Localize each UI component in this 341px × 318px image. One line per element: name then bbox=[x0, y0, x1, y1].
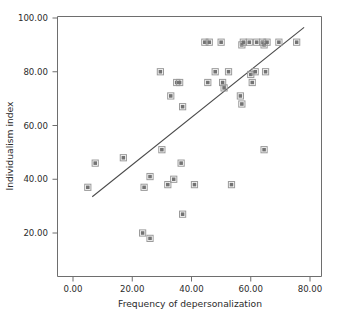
data-point-core bbox=[181, 212, 185, 216]
y-tick-label: 100.00 bbox=[18, 13, 48, 23]
data-point-core bbox=[250, 81, 254, 85]
data-point bbox=[141, 184, 147, 190]
y-tick-label: 80.00 bbox=[23, 67, 48, 77]
data-point bbox=[276, 39, 282, 45]
data-point-core bbox=[206, 81, 210, 85]
data-point bbox=[171, 176, 177, 182]
data-point bbox=[212, 69, 218, 75]
data-point-core bbox=[179, 161, 183, 165]
data-point-core bbox=[253, 70, 257, 74]
data-point bbox=[246, 39, 252, 45]
data-point bbox=[202, 39, 208, 45]
data-point-core bbox=[166, 183, 170, 187]
x-axis-ticks: 0.0020.0040.0060.0080.00 bbox=[63, 277, 322, 295]
y-tick-label: 20.00 bbox=[23, 228, 48, 238]
x-tick-label: 40.00 bbox=[179, 284, 204, 294]
x-axis-title: Frequency of depersonalization bbox=[118, 298, 262, 309]
data-point bbox=[218, 39, 224, 45]
data-point-core bbox=[262, 148, 266, 152]
data-point bbox=[262, 69, 268, 75]
data-point-core bbox=[207, 40, 211, 44]
y-axis-title: Individualism index bbox=[4, 101, 15, 191]
data-point-core bbox=[230, 183, 234, 187]
data-point-core bbox=[160, 148, 164, 152]
data-point-core bbox=[222, 86, 226, 90]
data-point-core bbox=[159, 70, 163, 74]
y-tick-label: 60.00 bbox=[23, 121, 48, 131]
data-point-core bbox=[93, 161, 97, 165]
data-point bbox=[228, 182, 234, 188]
data-point bbox=[157, 69, 163, 75]
data-point bbox=[159, 147, 165, 153]
data-point bbox=[92, 160, 98, 166]
plot-frame bbox=[58, 17, 322, 277]
y-axis-ticks: 20.0040.0060.0080.00100.00 bbox=[18, 13, 58, 238]
data-point-core bbox=[148, 175, 152, 179]
x-tick-label: 80.00 bbox=[298, 284, 323, 294]
plot-canvas: 20.0040.0060.0080.00100.00 0.0020.0040.0… bbox=[0, 0, 341, 318]
data-point bbox=[261, 147, 267, 153]
data-point bbox=[140, 230, 146, 236]
data-point bbox=[168, 93, 174, 99]
data-point bbox=[147, 235, 153, 241]
data-point-core bbox=[122, 156, 126, 160]
data-point bbox=[254, 39, 260, 45]
data-point bbox=[249, 79, 255, 85]
data-point-core bbox=[141, 231, 145, 235]
data-point bbox=[85, 184, 91, 190]
regression-line bbox=[92, 27, 304, 196]
data-point bbox=[294, 39, 300, 45]
data-point-core bbox=[181, 105, 185, 109]
data-point-core bbox=[264, 70, 268, 74]
data-point-core bbox=[213, 70, 217, 74]
data-point-core bbox=[142, 186, 146, 190]
data-point bbox=[180, 211, 186, 217]
data-point-core bbox=[255, 40, 259, 44]
data-point bbox=[225, 69, 231, 75]
data-point-core bbox=[148, 237, 152, 241]
data-point bbox=[165, 182, 171, 188]
data-point bbox=[239, 101, 245, 107]
data-point bbox=[191, 182, 197, 188]
data-point bbox=[147, 173, 153, 179]
data-point-core bbox=[227, 70, 231, 74]
x-tick-label: 60.00 bbox=[238, 284, 263, 294]
data-point-core bbox=[240, 102, 244, 106]
scatter-plot-figure: 20.0040.0060.0080.00100.00 0.0020.0040.0… bbox=[0, 0, 341, 318]
data-point-core bbox=[86, 186, 90, 190]
data-point-core bbox=[295, 40, 299, 44]
data-point bbox=[206, 39, 212, 45]
x-tick-label: 20.00 bbox=[120, 284, 145, 294]
data-point-core bbox=[242, 40, 246, 44]
data-point-core bbox=[265, 40, 269, 44]
data-point-core bbox=[247, 40, 251, 44]
data-point-core bbox=[219, 40, 223, 44]
data-points-group bbox=[85, 39, 300, 241]
data-point-core bbox=[172, 177, 176, 181]
data-point bbox=[180, 104, 186, 110]
data-point-core bbox=[178, 81, 182, 85]
data-point-core bbox=[277, 40, 281, 44]
x-tick-label: 0.00 bbox=[63, 284, 82, 294]
data-point bbox=[205, 79, 211, 85]
data-point-core bbox=[239, 94, 243, 98]
data-point-core bbox=[221, 81, 225, 85]
data-point bbox=[120, 155, 126, 161]
data-point-core bbox=[193, 183, 197, 187]
data-point bbox=[237, 93, 243, 99]
data-point-core bbox=[169, 94, 173, 98]
y-tick-label: 40.00 bbox=[23, 174, 48, 184]
data-point bbox=[178, 160, 184, 166]
